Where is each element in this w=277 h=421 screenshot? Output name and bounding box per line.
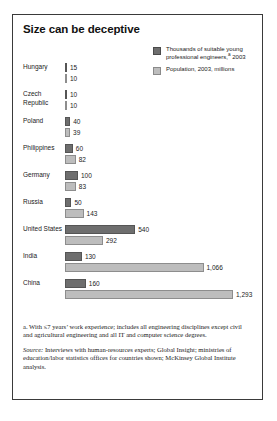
bar-value-label: 100 — [81, 172, 92, 180]
bar-line: 292 — [65, 236, 258, 245]
bar-line: 130 — [65, 252, 258, 261]
bar-line: 100 — [65, 171, 258, 180]
bar-line: 40 — [65, 117, 258, 126]
source-text: Source: Interviews with human-resources … — [23, 346, 251, 371]
bar-population — [65, 128, 70, 137]
bar-line: 83 — [65, 182, 258, 191]
category-label: Germany — [23, 171, 67, 180]
bar-group: 1510 — [65, 63, 258, 85]
category-label: Russia — [23, 198, 67, 207]
chart-row: Hungary1510 — [13, 61, 262, 88]
category-label: China — [23, 279, 67, 288]
bar-line: 50 — [65, 198, 258, 207]
bar-group: 50143 — [65, 198, 258, 220]
bar-value-label: 39 — [73, 129, 80, 137]
bar-group: 1301,066 — [65, 252, 258, 274]
bar-group: 4039 — [65, 117, 258, 139]
bar-engineers — [65, 171, 78, 180]
bar-group: 1010 — [65, 90, 258, 112]
legend-label-engineers: Thousands of suitable young professional… — [166, 46, 257, 61]
chart-row: India1301,066 — [13, 250, 262, 277]
chart-row: China1601,293 — [13, 277, 262, 304]
bar-population — [65, 209, 84, 218]
bar-engineers — [65, 63, 67, 72]
chart-row: Philippines6082 — [13, 142, 262, 169]
bar-line: 15 — [65, 63, 258, 72]
bar-value-label: 130 — [85, 253, 96, 261]
bar-engineers — [65, 117, 70, 126]
bar-value-label: 10 — [70, 91, 77, 99]
bar-chart: Hungary1510Czech Republic1010Poland4039P… — [13, 61, 262, 304]
bar-population — [65, 74, 67, 83]
bar-engineers — [65, 225, 135, 234]
exhibit-panel: Size can be deceptive Thousands of suita… — [12, 14, 263, 400]
footnote-text: a. With ≤7 years’ work experience; inclu… — [23, 323, 251, 340]
bar-line: 60 — [65, 144, 258, 153]
bar-value-label: 1,293 — [236, 291, 252, 299]
category-label: India — [23, 252, 67, 261]
bar-line: 10 — [65, 90, 258, 99]
bar-line: 160 — [65, 279, 258, 288]
bar-engineers — [65, 252, 82, 261]
bar-line: 82 — [65, 155, 258, 164]
legend-item-engineers: Thousands of suitable young professional… — [153, 46, 257, 61]
bar-line: 39 — [65, 128, 258, 137]
bar-value-label: 15 — [70, 64, 77, 72]
bar-group: 6082 — [65, 144, 258, 166]
bar-group: 1601,293 — [65, 279, 258, 301]
page-title: Size can be deceptive — [23, 23, 140, 35]
source-label: Source: — [23, 346, 43, 353]
bar-group: 540292 — [65, 225, 258, 247]
bar-engineers — [65, 144, 73, 153]
bar-population — [65, 155, 76, 164]
bar-population — [65, 182, 76, 191]
bar-value-label: 540 — [138, 226, 149, 234]
chart-row: Germany10083 — [13, 169, 262, 196]
bar-population — [65, 236, 103, 245]
chart-row: Czech Republic1010 — [13, 88, 262, 115]
bar-population — [65, 290, 233, 299]
bar-line: 1,066 — [65, 263, 258, 272]
category-label: Czech Republic — [23, 90, 67, 107]
bar-group: 10083 — [65, 171, 258, 193]
chart-row: United States540292 — [13, 223, 262, 250]
bar-population — [65, 101, 67, 110]
category-label: Philippines — [23, 144, 67, 153]
bar-value-label: 40 — [73, 118, 80, 126]
category-label: Hungary — [23, 63, 67, 72]
bar-line: 1,293 — [65, 290, 258, 299]
legend-swatch-engineers-icon — [153, 47, 161, 55]
category-label: United States — [23, 225, 67, 234]
bar-engineers — [65, 90, 67, 99]
bar-value-label: 1,066 — [207, 264, 223, 272]
bar-population — [65, 263, 204, 272]
bar-value-label: 82 — [79, 156, 86, 164]
bar-engineers — [65, 198, 71, 207]
bar-value-label: 60 — [76, 145, 83, 153]
bar-value-label: 160 — [89, 280, 100, 288]
bar-line: 143 — [65, 209, 258, 218]
bar-value-label: 292 — [106, 237, 117, 245]
bar-value-label: 10 — [70, 102, 77, 110]
bar-line: 10 — [65, 74, 258, 83]
chart-notes: a. With ≤7 years’ work experience; inclu… — [23, 323, 251, 371]
chart-row: Russia50143 — [13, 196, 262, 223]
bar-line: 10 — [65, 101, 258, 110]
category-label: Poland — [23, 117, 67, 126]
chart-row: Poland4039 — [13, 115, 262, 142]
bar-value-label: 143 — [87, 210, 98, 218]
bar-engineers — [65, 279, 86, 288]
bar-value-label: 83 — [79, 183, 86, 191]
bar-value-label: 10 — [70, 75, 77, 83]
bar-value-label: 50 — [74, 199, 81, 207]
bar-line: 540 — [65, 225, 258, 234]
